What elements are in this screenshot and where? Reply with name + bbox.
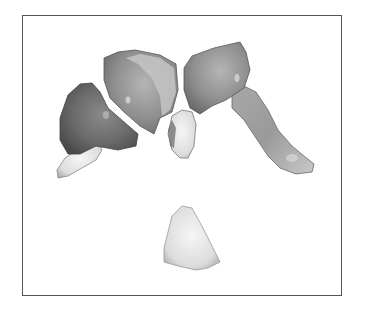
center-small-piece (168, 110, 196, 158)
render-canvas (0, 0, 365, 311)
right-arm-piece (184, 42, 314, 174)
bottom-cone-piece (164, 206, 220, 270)
